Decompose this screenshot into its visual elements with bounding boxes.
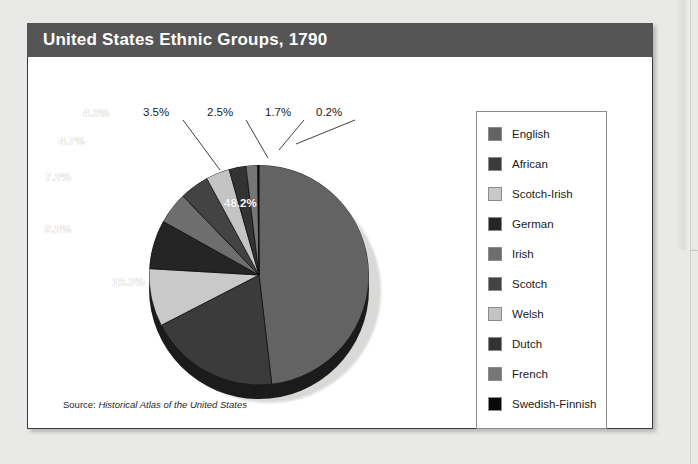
legend-swatch-icon [488,367,502,381]
legend-swatch-icon [488,217,502,231]
legend-item-label: German [512,218,554,230]
slice-label-african: 19.3% [112,276,145,288]
legend-item-label: Dutch [512,338,542,350]
chart-card: United States Ethnic Groups, 1790 48.2% … [27,23,653,429]
source-title: Historical Atlas of the United States [98,399,247,410]
legend-item-label: African [512,158,548,170]
chart-area: 48.2% 19.3% 8.5% 7.2% 4.7% 4.3% 3.5% 2.5… [28,58,652,428]
callout-label-swedish-finnish: 0.2% [316,106,342,118]
legend-swatch-icon [488,247,502,261]
legend-item-label: Irish [512,248,534,260]
legend-item-scotch[interactable]: Scotch [488,276,547,292]
callout-label-french: 1.7% [265,106,291,118]
legend-swatch-icon [488,187,502,201]
legend-item-english[interactable]: English [488,126,550,142]
legend-swatch-icon [488,307,502,321]
slice-label-scotch-irish: 8.5% [45,223,71,235]
page-title: United States Ethnic Groups, 1790 [43,30,327,50]
legend-swatch-icon [488,127,502,141]
slice-label-irish: 4.7% [59,135,85,147]
slice-label-german: 7.2% [45,171,71,183]
legend-swatch-icon [488,397,502,411]
pie-chart [149,165,381,413]
legend-item-dutch[interactable]: Dutch [488,336,542,352]
legend-item-german[interactable]: German [488,216,554,232]
legend-item-label: English [512,128,550,140]
slice-label-english: 48.2% [224,197,257,209]
legend-item-scotch-irish[interactable]: Scotch-Irish [488,186,573,202]
legend-item-irish[interactable]: Irish [488,246,534,262]
scan-edge-shadow [676,0,690,250]
source-citation: Source: Historical Atlas of the United S… [63,399,247,410]
callout-label-dutch: 2.5% [207,106,233,118]
pie-slices [149,165,369,385]
legend-item-label: Scotch-Irish [512,188,573,200]
legend-item-swedish-finnish[interactable]: Swedish-Finnish [488,396,596,412]
chart-legend: EnglishAfricanScotch-IrishGermanIrishSco… [476,111,607,429]
legend-swatch-icon [488,337,502,351]
callout-label-welsh: 3.5% [143,106,169,118]
chart-title-bar: United States Ethnic Groups, 1790 [27,23,653,57]
legend-swatch-icon [488,157,502,171]
legend-swatch-icon [488,277,502,291]
source-prefix: Source: [63,399,96,410]
slice-label-scotch: 4.3% [83,107,109,119]
scan-edge-tick [690,250,698,251]
legend-item-french[interactable]: French [488,366,548,382]
legend-item-african[interactable]: African [488,156,548,172]
legend-item-welsh[interactable]: Welsh [488,306,544,322]
legend-item-label: Swedish-Finnish [512,398,596,410]
pie-top-face [149,165,369,385]
scan-edge-line [690,0,691,464]
legend-item-label: French [512,368,548,380]
legend-item-label: Scotch [512,278,547,290]
legend-item-label: Welsh [512,308,544,320]
